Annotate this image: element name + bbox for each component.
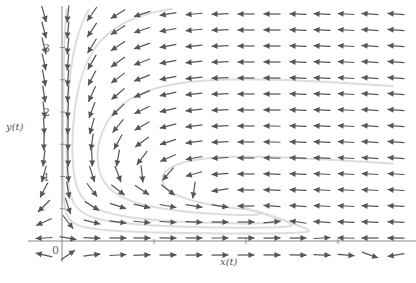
- direction-arrow: [61, 250, 75, 259]
- arrowhead-icon: [94, 220, 101, 226]
- direction-arrow: [212, 235, 229, 241]
- arrowhead-icon: [290, 11, 296, 17]
- direction-arrow: [314, 11, 331, 17]
- arrowhead-icon: [90, 176, 96, 183]
- direction-arrow: [36, 219, 52, 226]
- direction-arrow: [362, 43, 379, 49]
- direction-arrow: [42, 6, 48, 22]
- direction-arrow: [191, 182, 197, 199]
- arrowhead-icon: [89, 144, 95, 150]
- arrowhead-icon: [314, 27, 320, 33]
- arrowhead-icon: [388, 171, 394, 177]
- direction-arrow: [89, 166, 95, 182]
- arrowhead-icon: [290, 107, 296, 113]
- direction-arrow: [290, 171, 307, 177]
- arrowhead-icon: [388, 219, 394, 225]
- direction-arrow: [160, 154, 175, 161]
- arrowhead-icon: [196, 203, 202, 209]
- direction-arrow: [338, 171, 355, 177]
- direction-arrow: [264, 27, 281, 33]
- direction-arrow: [362, 187, 379, 193]
- arrowhead-icon: [111, 61, 118, 67]
- direction-arrow: [290, 187, 307, 193]
- arrowhead-icon: [212, 11, 218, 17]
- direction-arrow: [264, 155, 281, 161]
- arrowhead-icon: [362, 11, 368, 17]
- direction-arrow: [212, 27, 229, 33]
- arrowhead-icon: [171, 235, 177, 241]
- direction-arrow: [388, 43, 405, 49]
- direction-arrow: [238, 107, 255, 113]
- arrowhead-icon: [338, 171, 344, 177]
- direction-arrow: [65, 54, 71, 71]
- arrowhead-icon: [186, 59, 192, 65]
- trajectory-curve: [98, 79, 394, 215]
- arrowhead-icon: [388, 187, 394, 193]
- direction-arrow: [88, 86, 95, 101]
- arrowhead-icon: [88, 128, 94, 135]
- arrowhead-icon: [42, 16, 48, 23]
- arrowhead-icon: [223, 235, 229, 241]
- direction-arrow: [388, 27, 405, 33]
- direction-arrow: [264, 235, 281, 241]
- arrowhead-icon: [338, 27, 344, 33]
- arrowhead-icon: [65, 176, 71, 182]
- direction-arrow: [110, 252, 127, 258]
- direction-arrow: [362, 107, 379, 113]
- direction-arrow: [314, 139, 331, 145]
- direction-arrow: [115, 150, 121, 167]
- arrowhead-icon: [186, 75, 192, 81]
- direction-arrow: [338, 139, 355, 145]
- arrowhead-icon: [290, 171, 296, 177]
- arrowhead-icon: [264, 187, 270, 193]
- arrowhead-icon: [388, 253, 395, 259]
- arrowhead-icon: [314, 59, 320, 65]
- direction-arrow: [388, 91, 405, 97]
- arrowhead-icon: [388, 75, 394, 81]
- arrowhead-icon: [275, 252, 281, 258]
- direction-arrow: [186, 59, 203, 65]
- direction-arrow: [290, 59, 307, 65]
- arrowhead-icon: [348, 252, 354, 258]
- arrowhead-icon: [186, 172, 193, 178]
- arrowhead-icon: [197, 235, 203, 241]
- direction-arrow: [362, 171, 379, 177]
- arrowhead-icon: [264, 171, 270, 177]
- direction-arrow: [362, 252, 378, 259]
- arrowhead-icon: [42, 64, 48, 71]
- direction-arrow: [338, 203, 355, 209]
- direction-arrow: [160, 44, 177, 50]
- arrowhead-icon: [249, 235, 255, 241]
- direction-arrow: [290, 252, 307, 258]
- arrowhead-icon: [275, 235, 281, 241]
- arrowhead-icon: [362, 75, 368, 81]
- direction-arrow: [212, 91, 229, 97]
- direction-arrow: [238, 187, 255, 193]
- direction-arrow: [362, 27, 379, 33]
- direction-arrow: [42, 54, 48, 71]
- direction-arrow: [314, 75, 331, 81]
- arrowhead-icon: [67, 222, 73, 229]
- direction-arrow: [362, 11, 379, 17]
- arrowhead-icon: [111, 77, 118, 83]
- direction-arrow: [65, 38, 71, 55]
- arrowhead-icon: [314, 123, 320, 129]
- arrowhead-icon: [324, 252, 330, 258]
- direction-arrow: [388, 11, 405, 17]
- arrowhead-icon: [238, 107, 244, 113]
- direction-arrow: [290, 155, 307, 161]
- arrowhead-icon: [300, 252, 306, 258]
- arrowhead-icon: [314, 75, 320, 81]
- arrowhead-icon: [388, 155, 394, 161]
- arrowhead-icon: [87, 30, 93, 37]
- direction-arrow: [264, 187, 281, 193]
- direction-arrow: [134, 235, 151, 241]
- direction-arrow: [238, 59, 255, 65]
- arrowhead-icon: [338, 123, 344, 129]
- direction-arrow: [314, 27, 331, 33]
- arrowhead-icon: [65, 96, 71, 102]
- arrowhead-icon: [145, 235, 151, 241]
- direction-arrow: [314, 91, 331, 97]
- y-tick-label-2: 2: [43, 106, 50, 119]
- arrowhead-icon: [144, 252, 150, 258]
